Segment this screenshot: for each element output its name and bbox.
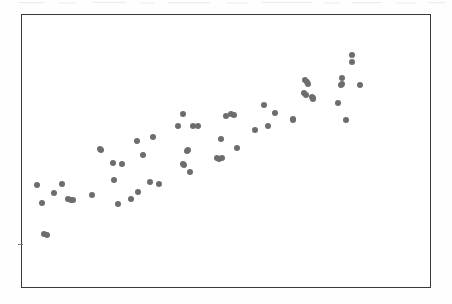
data-point <box>290 117 296 123</box>
data-point <box>128 196 134 202</box>
data-point <box>135 189 141 195</box>
data-point <box>44 232 50 238</box>
data-point <box>218 136 224 142</box>
data-point <box>335 100 341 106</box>
data-point <box>231 112 237 118</box>
data-point <box>252 127 258 133</box>
plot-frame <box>21 14 431 288</box>
data-point <box>111 177 117 183</box>
data-point <box>272 110 278 116</box>
data-point <box>338 82 344 88</box>
scatter-plot-figure <box>0 0 452 304</box>
data-point <box>349 52 355 58</box>
data-point <box>309 94 315 100</box>
data-point <box>184 148 190 154</box>
data-point <box>261 102 267 108</box>
data-point <box>147 179 153 185</box>
data-point <box>349 59 355 65</box>
data-point <box>115 201 121 207</box>
data-point <box>175 123 181 129</box>
data-point <box>343 117 349 123</box>
data-point <box>89 192 95 198</box>
page-root: Scatter plot showing a positive correlat… <box>0 0 452 304</box>
data-point <box>216 156 222 162</box>
data-point <box>357 82 363 88</box>
data-point <box>234 145 240 151</box>
data-point <box>150 134 156 140</box>
data-point <box>59 181 65 187</box>
data-point <box>134 138 140 144</box>
data-point <box>265 123 271 129</box>
data-point <box>156 181 162 187</box>
data-point <box>68 197 74 203</box>
data-point <box>180 111 186 117</box>
data-point <box>187 169 193 175</box>
data-point <box>51 190 57 196</box>
data-point <box>110 160 116 166</box>
data-point <box>39 200 45 206</box>
data-point <box>119 161 125 167</box>
y-axis-tick-mark <box>18 244 23 246</box>
data-point <box>181 162 187 168</box>
data-point <box>140 152 146 158</box>
data-point <box>34 182 40 188</box>
data-point <box>304 79 310 85</box>
plot-data-area <box>22 15 430 287</box>
data-point <box>195 123 201 129</box>
data-point <box>97 146 103 152</box>
